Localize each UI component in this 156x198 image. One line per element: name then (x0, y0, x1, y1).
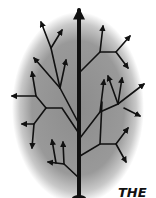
tree-diagram (0, 0, 156, 198)
caption-text: THE (118, 186, 147, 198)
